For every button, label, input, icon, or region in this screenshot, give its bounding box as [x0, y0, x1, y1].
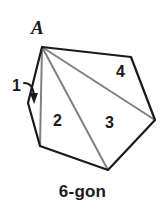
- polygon-triangulation-figure: A 1 2 3 4 6-gon: [0, 0, 165, 211]
- figure-caption: 6-gon: [0, 182, 165, 202]
- region-label-1: 1: [12, 78, 21, 94]
- region-label-2: 2: [53, 113, 62, 129]
- region-label-3: 3: [105, 115, 114, 131]
- vertex-label-a: A: [31, 18, 44, 37]
- polygon-diagram-svg: [0, 0, 165, 211]
- region-label-4: 4: [116, 64, 125, 80]
